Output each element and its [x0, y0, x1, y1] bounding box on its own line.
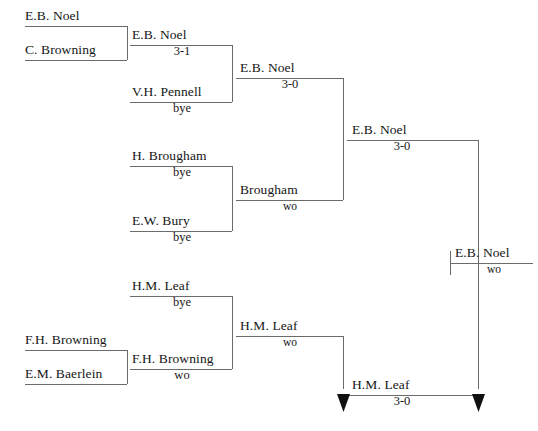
bracket-entry-r2-e3[interactable]: H. Brougham bye [132, 148, 232, 182]
match-score: bye [132, 101, 232, 116]
match-score: 3-0 [240, 77, 340, 92]
player-name: Brougham [240, 182, 298, 198]
bracket-entry-r4-e1[interactable]: E.B. Noel 3-0 [352, 122, 452, 156]
match-score: bye [132, 295, 232, 310]
tournament-bracket: E.B. Noel C. Browning F.H. Browning E.M.… [0, 0, 538, 431]
player-name: E.B. Noel [240, 60, 295, 76]
bracket-entry-r1-m1-p1[interactable]: E.B. Noel [25, 8, 127, 26]
match-score: 3-1 [132, 44, 232, 59]
bracket-entry-r4-e2[interactable]: H.M. Leaf 3-0 [352, 377, 452, 411]
player-name: H.M. Leaf [240, 318, 298, 334]
bracket-entry-r2-e5[interactable]: H.M. Leaf bye [132, 278, 232, 312]
bracket-entry-r2-e1[interactable]: E.B. Noel 3-1 [132, 27, 232, 61]
player-name: F.H. Browning [132, 351, 214, 367]
player-name: H. Brougham [132, 148, 207, 164]
match-score: bye [132, 165, 232, 180]
match-score: wo [240, 199, 340, 214]
player-name: H.M. Leaf [352, 377, 410, 393]
bracket-entry-r3-e2[interactable]: Brougham wo [240, 182, 340, 216]
bracket-entry-r2-e2[interactable]: V.H. Pennell bye [132, 84, 232, 118]
match-score: 3-0 [352, 139, 452, 154]
bracket-entry-r2-e6[interactable]: F.H. Browning wo [132, 351, 232, 385]
bracket-entry-r1-m2-p1[interactable]: F.H. Browning [25, 332, 127, 350]
bracket-entry-r3-e1[interactable]: E.B. Noel 3-0 [240, 60, 340, 94]
player-name: H.M. Leaf [132, 278, 190, 294]
match-score: wo [132, 368, 232, 383]
match-score: bye [132, 230, 232, 245]
player-name: E.B. Noel [132, 27, 187, 43]
bracket-entry-r1-m2-p2[interactable]: E.M. Baerlein [25, 366, 127, 384]
player-name: E.W. Bury [132, 213, 190, 229]
bracket-entry-r3-e3[interactable]: H.M. Leaf wo [240, 318, 340, 352]
arrow-down-left [337, 394, 350, 412]
player-name: V.H. Pennell [132, 84, 202, 100]
player-name: C. Browning [25, 42, 96, 58]
bracket-entry-r2-e4[interactable]: E.W. Bury bye [132, 213, 232, 247]
match-score: 3-0 [352, 394, 452, 409]
match-score: wo [455, 262, 533, 277]
player-name: E.B. Noel [352, 122, 407, 138]
arrow-down-right [472, 394, 485, 412]
player-name: E.M. Baerlein [25, 366, 102, 382]
player-name: E.B. Noel [455, 245, 510, 261]
match-score: wo [240, 335, 340, 350]
bracket-entry-champion[interactable]: E.B. Noel wo [455, 245, 533, 279]
player-name: F.H. Browning [25, 332, 107, 348]
bracket-entry-r1-m1-p2[interactable]: C. Browning [25, 42, 127, 60]
player-name: E.B. Noel [25, 8, 80, 24]
